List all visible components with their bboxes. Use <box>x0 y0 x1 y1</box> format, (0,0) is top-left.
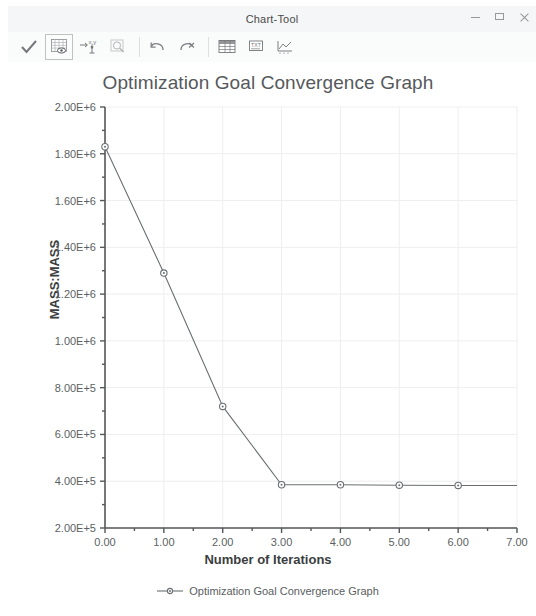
x-tick-label: 0.00 <box>94 536 115 548</box>
chart-tool-window: Chart-Tool <box>0 0 536 616</box>
spreadsheet-icon <box>217 38 237 56</box>
x-axis-label: Number of Iterations <box>0 552 536 567</box>
x-tick-label: 7.00 <box>506 536 527 548</box>
svg-text:x,y: x,y <box>89 39 97 45</box>
legend-item-label: Optimization Goal Convergence Graph <box>189 585 379 597</box>
x-tick-label: 6.00 <box>447 536 468 548</box>
export-button[interactable] <box>272 35 298 59</box>
data-point-center <box>222 405 224 407</box>
close-icon[interactable] <box>518 11 530 23</box>
y-tick-label: 4.00E+5 <box>55 475 96 487</box>
apply-check-button[interactable] <box>16 35 42 59</box>
chart-canvas[interactable]: Optimization Goal Convergence Graph MASS… <box>0 62 536 616</box>
maximize-icon[interactable] <box>494 11 506 23</box>
y-tick-label: 8.00E+5 <box>55 382 96 394</box>
export-chart-icon <box>275 38 295 56</box>
plot-svg: 2.00E+61.80E+61.60E+61.40E+61.20E+61.00E… <box>0 62 536 562</box>
magnifier-icon <box>109 38 127 56</box>
y-tick-label: 1.40E+6 <box>55 241 96 253</box>
x-tick-label: 1.00 <box>153 536 174 548</box>
y-tick-label: 2.00E+5 <box>55 522 96 534</box>
text-annotate-button[interactable]: TXT <box>243 35 269 59</box>
x-tick-label: 2.00 <box>212 536 233 548</box>
y-axis-ticks: 2.00E+61.80E+61.60E+61.40E+61.20E+61.00E… <box>55 101 105 534</box>
y-tick-label: 6.00E+5 <box>55 428 96 440</box>
data-point-center <box>281 484 283 486</box>
svg-text:TXT: TXT <box>251 42 262 48</box>
legend-marker-icon <box>157 582 183 600</box>
x-tick-label: 4.00 <box>330 536 351 548</box>
window-controls <box>470 11 530 23</box>
data-point-center <box>104 146 106 148</box>
chart-legend: Optimization Goal Convergence Graph <box>0 582 536 600</box>
data-point-center <box>163 272 165 274</box>
data-point-center <box>398 484 400 486</box>
table-view-button[interactable] <box>214 35 240 59</box>
x-axis-ticks: 0.001.002.003.004.005.006.007.00 <box>94 528 527 548</box>
toolbar-separator-2 <box>208 37 209 57</box>
show-grid-button[interactable] <box>45 34 73 60</box>
undo-arrow-icon <box>148 38 168 56</box>
minimize-icon[interactable] <box>470 11 482 23</box>
y-tick-label: 1.00E+6 <box>55 335 96 347</box>
checkmark-icon <box>20 38 38 56</box>
y-tick-label: 1.20E+6 <box>55 288 96 300</box>
axis-exponent-icon: x,y <box>79 38 99 56</box>
window-title: Chart-Tool <box>246 13 299 25</box>
toolbar-separator-1 <box>139 37 140 57</box>
y-tick-label: 2.00E+6 <box>55 101 96 113</box>
grid-lines <box>105 107 517 528</box>
grid-table-eye-icon <box>50 38 68 56</box>
x-tick-label: 5.00 <box>389 536 410 548</box>
y-tick-label: 1.80E+6 <box>55 148 96 160</box>
y-tick-label: 1.60E+6 <box>55 195 96 207</box>
data-point-center <box>339 484 341 486</box>
title-bar[interactable]: Chart-Tool <box>8 6 536 32</box>
redo-arrow-icon <box>177 38 197 56</box>
zoom-button[interactable] <box>105 35 131 59</box>
axis-scale-button[interactable]: x,y <box>76 35 102 59</box>
toolbar: x,y <box>8 32 536 62</box>
text-box-icon: TXT <box>247 38 265 56</box>
data-point-center <box>457 484 459 486</box>
undo-button[interactable] <box>145 35 171 59</box>
x-tick-label: 3.00 <box>271 536 292 548</box>
redo-button[interactable] <box>174 35 200 59</box>
